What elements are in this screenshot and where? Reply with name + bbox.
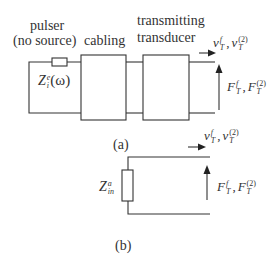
cabling-label: cabling — [84, 34, 125, 48]
velocity-label-b: vfT,v(2)T — [204, 129, 239, 145]
caption-b: (b) — [115, 239, 131, 253]
force-arrowhead-a — [216, 64, 223, 73]
cabling-box — [81, 55, 126, 120]
no-source-label: (no source) — [13, 34, 76, 48]
pulser-impedance-resistor — [52, 58, 67, 66]
transmitting-label: transmitting — [137, 14, 205, 28]
pulser-impedance-label: Zei(ω) — [38, 74, 70, 90]
force-label-b: FfT,F(2)T — [217, 180, 256, 196]
transducer-box — [143, 55, 189, 120]
pulser-label: pulser — [30, 19, 64, 33]
thevenin-top-wire — [128, 157, 210, 170]
caption-a: (a) — [113, 138, 129, 152]
thevenin-bottom-wire — [128, 201, 210, 214]
input-impedance-resistor — [122, 170, 133, 201]
force-arrowhead-b — [204, 165, 211, 174]
transducer-label: transducer — [137, 31, 195, 45]
force-label-a: FfT,F(2)T — [227, 80, 266, 96]
input-impedance-label: Zain — [99, 180, 114, 196]
velocity-label-a: vfT,v(2)T — [213, 36, 248, 52]
